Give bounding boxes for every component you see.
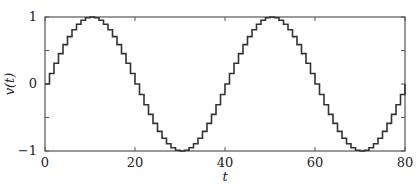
y-tick-label: 1: [29, 9, 37, 24]
x-tick-labels: 020406080: [41, 155, 413, 170]
x-tick-label: 80: [397, 155, 414, 170]
x-axis-label: t: [222, 169, 228, 184]
step-sine-chart: 020406080 −101 t v(t): [0, 0, 418, 185]
x-tick-label: 60: [307, 155, 324, 170]
x-tick-label: 20: [127, 155, 144, 170]
y-tick-label: −1: [18, 143, 37, 158]
y-tick-labels: −101: [18, 9, 37, 158]
y-axis-label: v(t): [2, 73, 17, 96]
x-tick-label: 0: [41, 155, 49, 170]
y-tick-label: 0: [29, 76, 37, 91]
sampled-sine-step-line: [45, 17, 405, 151]
x-tick-label: 40: [217, 155, 234, 170]
